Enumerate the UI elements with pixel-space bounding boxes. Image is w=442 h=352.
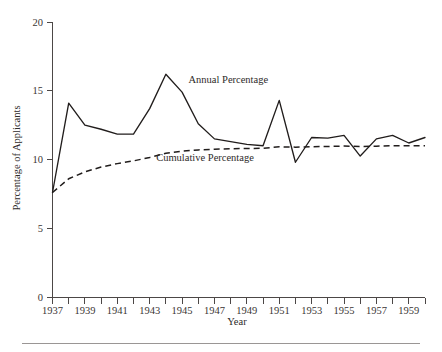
- x-axis-title: Year: [227, 316, 247, 327]
- figure-container: 05101520 1937193919411943194519471949195…: [0, 0, 442, 352]
- x-axis-ticks: [53, 298, 426, 304]
- y-tick-label: 5: [38, 223, 43, 234]
- y-axis-title: Percentage of Applicants: [11, 106, 22, 211]
- x-tick-label: 1939: [74, 305, 95, 316]
- y-axis-tick-labels: 05101520: [33, 17, 44, 303]
- x-tick-label: 1943: [139, 305, 160, 316]
- y-tick-label: 0: [38, 292, 43, 303]
- x-tick-label: 1947: [204, 305, 225, 316]
- footer-divider: [22, 343, 420, 344]
- y-tick-label: 15: [33, 85, 44, 96]
- x-tick-label: 1945: [172, 305, 193, 316]
- x-tick-label: 1937: [42, 305, 63, 316]
- x-axis-tick-labels: 1937193919411943194519471949195119531955…: [42, 305, 419, 316]
- y-tick-label: 20: [33, 17, 44, 28]
- x-tick-label: 1955: [334, 305, 355, 316]
- line-chart: 05101520 1937193919411943194519471949195…: [0, 0, 442, 352]
- x-tick-label: 1949: [236, 305, 257, 316]
- y-tick-label: 10: [33, 154, 44, 165]
- y-axis-ticks: [47, 22, 53, 297]
- x-tick-label: 1951: [269, 305, 290, 316]
- x-tick-label: 1941: [107, 305, 128, 316]
- series-annual-percentage-line: [53, 74, 426, 192]
- x-tick-label: 1957: [366, 305, 387, 316]
- x-tick-label: 1953: [301, 305, 322, 316]
- series-label-annual-percentage: Annual Percentage: [189, 74, 269, 85]
- series-label-cumulative-percentage: Cumulative Percentage: [156, 152, 254, 163]
- x-tick-label: 1959: [398, 305, 419, 316]
